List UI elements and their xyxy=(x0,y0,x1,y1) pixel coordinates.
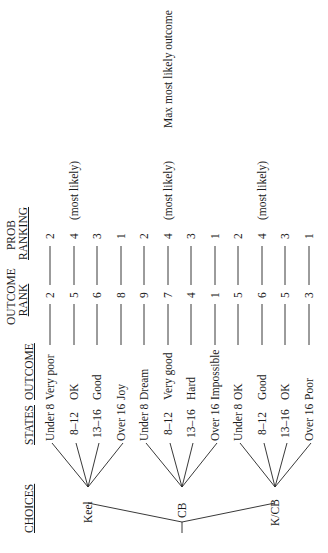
outcome-label: Very good xyxy=(162,352,174,400)
most-likely-note: (most likely) xyxy=(162,161,174,220)
header-outcome-rank: OUTCOME RANK xyxy=(5,275,29,325)
state-label: 13–16 xyxy=(91,409,103,438)
prob-ranking-value: 3 xyxy=(185,233,197,239)
state-label: Under 8 xyxy=(232,404,244,441)
state-label: Over 16 xyxy=(303,404,315,441)
state-label: Over 16 xyxy=(115,404,127,441)
most-likely-note: (most likely) xyxy=(68,161,80,220)
most-likely-note: (most likely) xyxy=(256,161,268,220)
outcome-rank-value: 1 xyxy=(209,292,221,298)
outcome-label: Good xyxy=(91,374,103,400)
prob-ranking-value: 4 xyxy=(162,233,174,239)
outcome-rank-value: 5 xyxy=(68,292,80,298)
state-label: 8–12 xyxy=(68,412,80,435)
outcome-rank-value: 9 xyxy=(138,292,150,298)
choice-label-cb: CB xyxy=(176,503,188,518)
outcome-label: Dream xyxy=(138,369,150,400)
outcome-rank-value: 7 xyxy=(162,292,174,298)
outcome-label: OK xyxy=(279,383,291,400)
choice-label-keel: Keel xyxy=(82,501,94,523)
prob-ranking-value: 2 xyxy=(232,233,244,239)
outcome-label: OK xyxy=(232,383,244,400)
state-label: Over 16 xyxy=(209,404,221,441)
header-prob-ranking: PROB RANKING xyxy=(5,210,29,260)
max-most-likely-annotation: Max most likely outcome xyxy=(162,10,174,128)
prob-dashes xyxy=(50,246,309,285)
prob-ranking-value: 3 xyxy=(91,233,103,239)
outcome-label: Poor xyxy=(303,378,315,400)
outcome-rank-value: 4 xyxy=(185,292,197,298)
outcome-label: Good xyxy=(256,374,268,400)
outcome-label: Joy xyxy=(115,384,127,400)
outcome-label: Impossible xyxy=(209,350,221,400)
outcome-label: Very poor xyxy=(44,354,56,400)
outcome-label: OK xyxy=(68,383,80,400)
prob-ranking-value: 4 xyxy=(256,233,268,239)
header-states: STATES xyxy=(23,405,35,445)
outcome-rank-value: 5 xyxy=(232,292,244,298)
rank-dashes xyxy=(50,304,309,345)
outcome-rank-value: 6 xyxy=(91,292,103,298)
prob-ranking-value: 1 xyxy=(115,233,127,239)
state-label: 13–16 xyxy=(185,409,197,438)
prob-ranking-value: 2 xyxy=(44,233,56,239)
state-label: 13–16 xyxy=(279,409,291,438)
outcome-rank-value: 6 xyxy=(256,292,268,298)
prob-ranking-value: 1 xyxy=(209,233,221,239)
outcome-rank-value: 2 xyxy=(44,292,56,298)
header-choices: CHOICES xyxy=(23,484,35,533)
outcome-rank-value: 3 xyxy=(303,292,315,298)
prob-ranking-value: 2 xyxy=(138,233,150,239)
decision-tree-diagram: CHOICES STATES OUTCOME OUTCOME RANK PROB… xyxy=(0,0,328,553)
state-label: 8–12 xyxy=(162,412,174,435)
prob-ranking-value: 4 xyxy=(68,233,80,239)
state-label: Under 8 xyxy=(138,404,150,441)
outcome-rank-value: 8 xyxy=(115,292,127,298)
outcome-rank-value: 5 xyxy=(279,292,291,298)
prob-ranking-value: 1 xyxy=(303,233,315,239)
choice-label-kcb: K/CB xyxy=(269,499,281,526)
state-label: Under 8 xyxy=(44,404,56,441)
prob-ranking-value: 3 xyxy=(279,233,291,239)
header-outcome: OUTCOME xyxy=(23,343,35,400)
outcome-label: Hard xyxy=(185,377,197,400)
state-label: 8–12 xyxy=(256,412,268,435)
